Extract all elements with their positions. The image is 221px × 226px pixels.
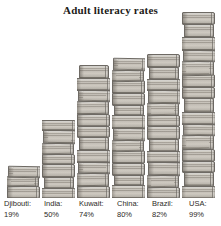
book xyxy=(42,143,74,155)
x-label-name: India xyxy=(44,199,60,208)
book xyxy=(78,162,110,174)
book xyxy=(149,139,179,152)
x-label-value: 99% xyxy=(189,209,207,220)
book xyxy=(148,90,180,105)
x-axis-labels: Djibouti: 19% India: 50% Kuwait: 74% Chi… xyxy=(0,198,221,226)
bar-brazil xyxy=(147,44,180,198)
x-label-brazil: Brazil: 82% xyxy=(152,198,173,220)
book xyxy=(182,135,214,150)
book xyxy=(182,37,215,50)
x-label-name: USA xyxy=(189,199,204,208)
book xyxy=(77,78,110,91)
book xyxy=(8,165,40,177)
book xyxy=(78,90,110,102)
book xyxy=(112,139,144,151)
book xyxy=(147,79,180,91)
x-label-colon: : xyxy=(29,199,31,208)
book xyxy=(77,126,110,138)
book xyxy=(112,80,145,94)
book xyxy=(147,175,179,188)
book xyxy=(149,67,179,80)
book xyxy=(114,105,144,117)
book xyxy=(147,103,179,116)
book xyxy=(147,126,180,140)
book xyxy=(184,172,214,187)
book xyxy=(182,61,214,76)
plot-area xyxy=(0,0,221,198)
book xyxy=(42,154,75,165)
book xyxy=(184,98,214,113)
book xyxy=(112,93,145,106)
book xyxy=(182,87,215,99)
x-label-name: Brazil xyxy=(152,199,171,208)
bar-kuwait xyxy=(77,57,110,198)
book xyxy=(44,177,74,189)
book xyxy=(112,150,145,164)
book xyxy=(77,173,109,188)
x-label-colon: : xyxy=(204,199,206,208)
x-label-colon: : xyxy=(102,199,104,208)
book xyxy=(147,187,180,198)
book xyxy=(43,130,75,144)
book xyxy=(42,188,75,198)
literacy-rates-chart: Adult literacy rates Djibouti: 19% India… xyxy=(0,0,221,226)
book xyxy=(183,124,215,136)
x-label-china: China: 80% xyxy=(117,198,139,220)
book xyxy=(182,161,215,173)
book xyxy=(79,137,109,151)
bar-usa xyxy=(182,0,215,198)
book xyxy=(183,49,215,61)
bar-india xyxy=(42,113,75,198)
book xyxy=(112,115,145,129)
book xyxy=(77,101,109,116)
x-label-colon: : xyxy=(60,199,62,208)
book xyxy=(114,175,144,187)
x-label-value: 19% xyxy=(4,209,31,220)
book xyxy=(77,114,110,127)
book xyxy=(77,150,110,163)
book xyxy=(184,24,214,39)
book xyxy=(79,65,109,79)
book xyxy=(112,69,144,81)
bar-china xyxy=(112,48,145,198)
book xyxy=(7,186,40,198)
x-label-value: 80% xyxy=(117,209,139,220)
book xyxy=(147,54,180,68)
book xyxy=(147,151,180,163)
x-label-value: 74% xyxy=(79,209,104,220)
bar-djibouti xyxy=(7,163,40,198)
book xyxy=(77,186,110,198)
book xyxy=(182,12,215,24)
x-label-name: China xyxy=(117,199,137,208)
book xyxy=(182,74,215,87)
book xyxy=(112,185,145,198)
x-label-value: 82% xyxy=(152,209,173,220)
x-label-name: Kuwait xyxy=(79,199,102,208)
book xyxy=(113,128,145,141)
x-label-usa: USA: 99% xyxy=(189,198,207,220)
x-label-india: India: 50% xyxy=(44,198,62,220)
book xyxy=(182,186,215,198)
x-label-value: 50% xyxy=(44,209,62,220)
book xyxy=(182,112,215,125)
book xyxy=(148,162,180,177)
x-label-colon: : xyxy=(171,199,173,208)
x-label-djibouti: Djibouti: 19% xyxy=(4,198,31,220)
book xyxy=(147,115,180,127)
x-label-kuwait: Kuwait: 74% xyxy=(79,198,104,220)
book xyxy=(113,58,145,71)
book xyxy=(42,164,75,178)
book xyxy=(42,120,75,131)
x-label-colon: : xyxy=(137,199,139,208)
book xyxy=(182,149,215,162)
x-label-name: Djibouti xyxy=(4,199,29,208)
book xyxy=(112,163,145,176)
